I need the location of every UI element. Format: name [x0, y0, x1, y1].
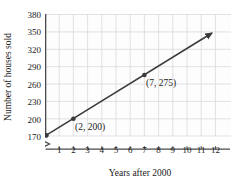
x-tick-label: 2 [66, 145, 80, 155]
x-tick-label: 1 [52, 145, 66, 155]
y-tick-label: 170 [19, 133, 41, 142]
data-point-marker [71, 117, 76, 122]
y-tick-label: 380 [19, 11, 41, 20]
x-tick-label: 3 [81, 145, 95, 155]
x-tick-label: 8 [152, 145, 166, 155]
y-tick-label: 290 [19, 63, 41, 72]
chart-figure: Number of houses sold 380 350 320 290 26… [0, 0, 243, 185]
y-tick-label: 320 [19, 46, 41, 55]
y-tick-label: 260 [19, 81, 41, 90]
x-tick-label: 6 [123, 145, 137, 155]
chart-canvas [45, 14, 231, 150]
x-tick-label: 12 [208, 145, 222, 155]
x-tick-label: 4 [95, 145, 109, 155]
x-tick-label: 9 [166, 145, 180, 155]
point-annotation-7-275: (7, 275) [146, 78, 176, 88]
plot-area: (2, 200) (7, 275) [45, 14, 231, 136]
x-axis-title: Years after 2000 [45, 168, 235, 178]
x-tick-label: 7 [137, 145, 151, 155]
x-tick-label: 5 [109, 145, 123, 155]
y-axis-title: Number of houses sold [2, 11, 14, 143]
x-axis-tick-labels: 1 2 3 4 5 6 7 8 9 10 11 12 [0, 145, 243, 157]
y-tick-label: 350 [19, 28, 41, 37]
y-tick-label: 230 [19, 98, 41, 107]
y-axis-tick-labels: 380 350 320 290 260 230 200 170 [17, 0, 41, 185]
x-tick-label: 10 [180, 145, 194, 155]
data-point-marker [142, 73, 147, 78]
x-tick-label: 11 [194, 145, 208, 155]
y-tick-label: 200 [19, 116, 41, 125]
point-annotation-2-200: (2, 200) [75, 122, 105, 132]
